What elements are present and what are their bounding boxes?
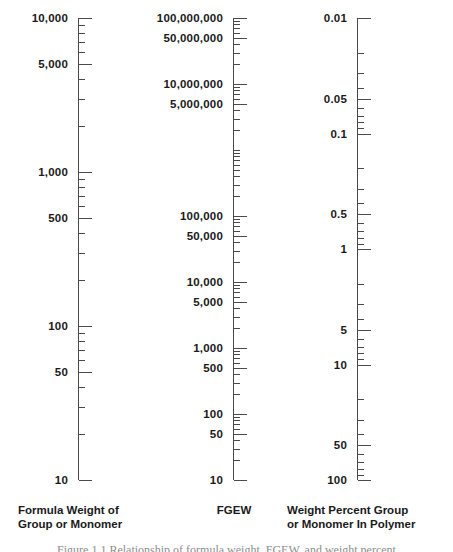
nomogram-figure: 10,0005,0001,0005001005010100,000,00050,…: [0, 0, 453, 552]
axis-tick-label: 10: [210, 474, 223, 486]
axis-tick-major: [79, 218, 92, 219]
axis-tick-major: [234, 38, 247, 39]
axis-tick-minor: [358, 339, 364, 340]
axis-tick-major: [234, 434, 247, 435]
axis-tick-minor: [234, 222, 240, 223]
axis-tick-minor: [234, 226, 240, 227]
axis-tick-minor: [234, 351, 240, 352]
axis-tick-minor: [79, 206, 85, 207]
axis-tick-major: [358, 18, 371, 19]
axis-tick-minor: [234, 87, 240, 88]
axis-caption-line1: Formula Weight of: [18, 504, 122, 518]
axis-tick-major: [234, 414, 247, 415]
axis-tick-minor: [234, 176, 240, 177]
axis-caption-line2: or Monomer In Polymer: [287, 518, 415, 532]
axis-tick-minor: [234, 150, 240, 151]
axis-tick-minor: [358, 88, 364, 89]
axis-tick-major: [234, 282, 247, 283]
axis-tick-minor: [234, 358, 240, 359]
axis-tick-label: 5,000,000: [170, 98, 223, 110]
axis-tick-minor: [234, 119, 240, 120]
axis-tick-minor: [358, 189, 364, 190]
axis-tick-minor: [358, 223, 364, 224]
axis-tick-minor: [234, 308, 240, 309]
axis-tick-major: [79, 18, 92, 19]
axis-tick-minor: [234, 420, 240, 421]
axis-tick-minor: [234, 110, 240, 111]
axis-tick-minor: [358, 53, 364, 54]
axis-tick-minor: [234, 374, 240, 375]
axis-caption-weight-percent: Weight Percent Group or Monomer In Polym…: [287, 504, 415, 531]
axis-tick-label: 50,000: [187, 230, 223, 242]
axis-tick-label: 50: [55, 366, 68, 378]
axis-tick-minor: [358, 203, 364, 204]
axis-tick-label: 50,000,000: [163, 32, 223, 44]
axis-tick-minor: [234, 317, 240, 318]
axis-tick-minor: [79, 179, 85, 180]
axis-tick-minor: [79, 126, 85, 127]
axis-tick-minor: [358, 454, 364, 455]
axis-tick-minor: [79, 350, 85, 351]
axis-caption-fgew: FGEW: [192, 504, 276, 518]
axis-tick-major: [234, 216, 247, 217]
axis-tick-label: 5,000: [38, 58, 68, 70]
axis-tick-label: 100,000: [180, 210, 223, 222]
axis-tick-minor: [234, 21, 240, 22]
axis-tick-minor: [358, 347, 364, 348]
axis-tick-minor: [358, 353, 364, 354]
axis-tick-minor: [79, 434, 85, 435]
axis-tick-minor: [79, 196, 85, 197]
axis-tick-major: [358, 214, 371, 215]
axis-tick-label: 10,000,000: [163, 78, 223, 90]
axis-tick-minor: [234, 460, 240, 461]
axis-tick-minor: [79, 187, 85, 188]
axis-tick-label: 5,000: [193, 296, 223, 308]
axis-tick-major: [234, 18, 247, 19]
axis-tick-major: [358, 330, 371, 331]
axis-tick-minor: [234, 251, 240, 252]
axis-tick-minor: [234, 363, 240, 364]
axis-tick-minor: [234, 24, 240, 25]
axis-tick-minor: [234, 64, 240, 65]
axis-tick-minor: [234, 383, 240, 384]
axis-tick-minor: [234, 196, 240, 197]
axis-tick-minor: [358, 304, 364, 305]
axis-tick-label: 1,000: [193, 342, 223, 354]
axis-tick-label: 100,000,000: [157, 12, 223, 24]
axis-tick-minor: [358, 116, 364, 117]
axis-tick-minor: [234, 429, 240, 430]
axis-tick-label: 50: [334, 439, 347, 451]
axis-tick-minor: [79, 280, 85, 281]
axis-tick-minor: [234, 94, 240, 95]
axis-tick-minor: [358, 475, 364, 476]
axis-tick-minor: [234, 242, 240, 243]
axis-tick-minor: [79, 407, 85, 408]
axis-tick-minor: [358, 462, 364, 463]
axis-tick-major: [234, 348, 247, 349]
axis-tick-major: [234, 368, 247, 369]
axis-tick-minor: [234, 44, 240, 45]
axis-tick-minor: [79, 360, 85, 361]
axis-tick-minor: [234, 354, 240, 355]
axis-tick-minor: [358, 469, 364, 470]
axis-tick-minor: [234, 153, 240, 154]
axis-tick-minor: [358, 238, 364, 239]
figure-caption: Figure 1.1 Relationship of formula weigh…: [0, 543, 453, 552]
axis-tick-major: [234, 104, 247, 105]
axis-tick-minor: [234, 231, 240, 232]
axis-tick-major: [358, 365, 371, 366]
axis-tick-major: [358, 134, 371, 135]
axis-tick-label: 10,000: [32, 12, 68, 24]
axis-tick-minor: [79, 52, 85, 53]
axis-tick-label: 100: [203, 408, 223, 420]
axis-tick-minor: [234, 165, 240, 166]
axis-tick-minor: [79, 253, 85, 254]
axis-tick-major: [234, 236, 247, 237]
axis-tick-major: [234, 480, 247, 481]
axis-tick-major: [79, 172, 92, 173]
axis-tick-major: [79, 372, 92, 373]
axis-tick-minor: [358, 434, 364, 435]
axis-tick-label: 5: [340, 324, 347, 336]
axis-tick-minor: [79, 79, 85, 80]
axis-tick-label: 1: [340, 243, 347, 255]
